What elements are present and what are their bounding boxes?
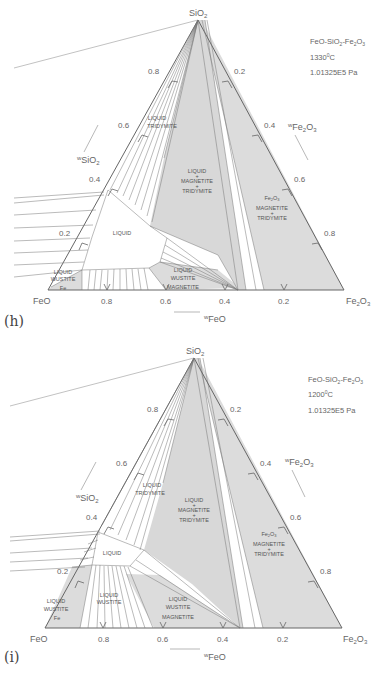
label-lwf-2: WUSTITE [44, 606, 69, 612]
temperature: 12000C [308, 389, 333, 399]
system-title: FeO-SiO2-Fe2O3 [310, 37, 365, 47]
label-lw-2: WUSTITE [97, 599, 122, 605]
right-tick-0.8: 0.8 [320, 567, 332, 576]
axis-label-feo: wFeO [203, 652, 226, 662]
left-tick-0.4: 0.4 [86, 513, 98, 522]
right-tick-0.2: 0.2 [230, 405, 242, 414]
panel-label-h: (h) [4, 313, 24, 329]
right-tick-0.6: 0.6 [294, 175, 306, 184]
left-tick-0.6: 0.6 [116, 459, 128, 468]
label-lwm-3: MAGNETITE [162, 614, 194, 620]
diagram-i: 0.8 0.6 0.4 0.2 0.2 0.4 0.6 0.8 0.8 0.6 … [4, 346, 368, 665]
label-fmt-1: Fe2O3 [261, 531, 277, 538]
label-liquid-tridymite-2: TRIDYMITE [147, 123, 177, 129]
axis-label-fe2o3: wFe2O3 [284, 457, 314, 468]
label-lwm-2: WUSTITE [171, 275, 196, 281]
bottom-tick-0.8: 0.8 [98, 635, 110, 644]
label-liquid-tridymite-2: TRIDYMITE [135, 490, 165, 496]
axis-label-feo: wFeO [203, 314, 226, 324]
left-tick-0.2: 0.2 [57, 567, 69, 576]
label-fmt-3: TRIDYMITE [254, 551, 284, 557]
left-tick-0.4: 0.4 [89, 175, 101, 184]
diagram-h: 0.8 0.6 0.4 0.2 0.2 0.4 0.6 0.8 0.8 0.6 … [4, 8, 371, 329]
temperature: 13300C [310, 52, 335, 62]
label-lw-1: LIQUID [100, 592, 118, 598]
system-title: FeO-SiO2-Fe2O3 [308, 375, 363, 385]
phase-diagrams: 0.8 0.6 0.4 0.2 0.2 0.4 0.6 0.8 0.8 0.6 … [0, 0, 382, 678]
bottom-tick-0.6: 0.6 [157, 635, 169, 644]
label-liquid-tridymite-1: LIQUID [143, 482, 161, 488]
left-tick-0.6: 0.6 [118, 121, 130, 130]
label-lwm-1: LIQUID [174, 267, 192, 273]
bottom-tick-0.6: 0.6 [160, 297, 172, 306]
label-fmt-1: Fe2O3 [264, 195, 280, 202]
pressure: 1.01325E5 Pa [310, 68, 358, 77]
vertex-feo: FeO [30, 634, 48, 644]
right-tick-0.8: 0.8 [324, 229, 336, 238]
right-tick-0.6: 0.6 [290, 513, 302, 522]
label-liquid: LIQUID [103, 550, 121, 556]
left-tick-0.8: 0.8 [148, 67, 160, 76]
vertex-fe2o3: Fe2O3 [346, 296, 371, 307]
axis-label-sio2: wSiO2 [76, 155, 100, 166]
right-tick-0.4: 0.4 [260, 459, 272, 468]
label-lwf-1: LIQUID [47, 598, 65, 604]
label-lwm-1: LIQUID [169, 596, 187, 602]
panel-label-i: (i) [4, 649, 19, 665]
bottom-tick-0.8: 0.8 [101, 297, 113, 306]
pressure: 1.01325E5 Pa [308, 406, 356, 415]
right-tick-0.4: 0.4 [264, 121, 276, 130]
label-fmt-3: TRIDYMITE [257, 215, 287, 221]
label-liquid-tridymite-1: LIQUID [148, 115, 166, 121]
vertex-fe2o3: Fe2O3 [343, 634, 368, 645]
left-tick-0.8: 0.8 [147, 405, 159, 414]
left-tick-0.2: 0.2 [59, 229, 71, 238]
label-lwf-2: WUSTITE [51, 276, 76, 282]
label-lwf-3: Fe [60, 285, 66, 291]
label-lmt-3: TRIDYMITE [182, 188, 212, 194]
label-lwm-2: WUSTITE [166, 604, 191, 610]
axis-label-sio2: wSiO2 [75, 493, 99, 504]
bottom-tick-0.2: 0.2 [278, 297, 290, 306]
label-lmt-3: TRIDYMITE [179, 517, 209, 523]
vertex-sio2: SiO2 [186, 346, 205, 357]
bottom-tick-0.4: 0.4 [217, 635, 229, 644]
region-liquid-wustite-fe [45, 565, 92, 628]
label-lwf-3: Fe [54, 615, 60, 621]
right-tick-0.2: 0.2 [234, 67, 246, 76]
label-lwf-1: LIQUID [54, 269, 72, 275]
axis-label-fe2o3: wFe2O3 [287, 122, 317, 133]
label-liquid: LIQUID [113, 230, 131, 236]
bottom-tick-0.2: 0.2 [277, 635, 289, 644]
vertex-feo: FeO [33, 296, 51, 306]
label-lwm-3: MAGNETITE [167, 284, 199, 290]
bottom-tick-0.4: 0.4 [219, 297, 231, 306]
vertex-sio2: SiO2 [189, 8, 208, 19]
